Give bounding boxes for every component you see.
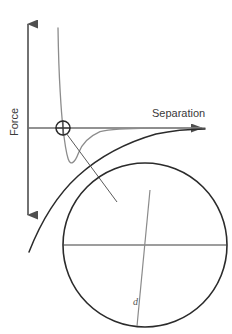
magnified-inset: d <box>63 163 227 327</box>
curves-group <box>29 28 205 252</box>
inset-separation-line <box>137 190 150 326</box>
inset-leader-line <box>66 133 117 202</box>
x-axis-label: Separation <box>152 107 205 119</box>
approach-curve <box>29 129 205 252</box>
zero-crossing-marker[interactable] <box>56 121 71 136</box>
figure-root: Force Separation d <box>0 0 232 334</box>
separation-distance-label: d <box>133 296 139 307</box>
force-separation-figure: Force Separation d <box>0 0 232 334</box>
axes-group: Force Separation <box>8 24 205 215</box>
y-axis-label: Force <box>8 108 20 136</box>
